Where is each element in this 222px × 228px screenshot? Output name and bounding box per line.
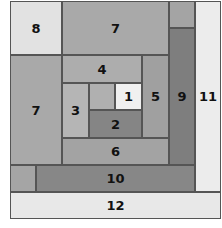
block-2: 2 <box>89 110 142 138</box>
block-12: 12 <box>10 192 221 219</box>
block-7b: 7 <box>10 55 62 165</box>
block-11: 11 <box>195 1 221 192</box>
block-bl <box>10 165 36 192</box>
block-3: 3 <box>62 83 89 138</box>
block-1: 1 <box>115 83 142 110</box>
block-7a: 7 <box>62 1 169 55</box>
block-4: 4 <box>62 55 142 83</box>
block-9: 9 <box>169 28 195 165</box>
block-6: 6 <box>62 138 169 165</box>
block-8: 8 <box>10 1 62 55</box>
block-5: 5 <box>142 55 169 138</box>
block-c <box>89 83 115 110</box>
block-tr <box>169 1 195 28</box>
block-10: 10 <box>36 165 195 192</box>
